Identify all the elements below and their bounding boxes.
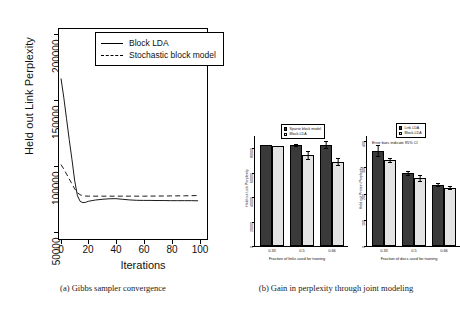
errorbar-protein-block-lda-0 xyxy=(388,158,393,163)
chart-protein-perplexity-xtick-0: 0.33 xyxy=(372,248,396,253)
errorbar-link-lda-2 xyxy=(436,183,441,187)
chart-link-perplexity-y-axis xyxy=(254,136,255,246)
bar-protein-block-lda-2 xyxy=(444,188,456,246)
errorbar-sparse-block-model-1 xyxy=(294,144,299,146)
legend-label-block-lda: Block-LDA xyxy=(290,132,307,137)
chart-protein-perplexity-xtick-1: 0.5 xyxy=(402,248,426,253)
bar-link-lda-0 xyxy=(372,151,384,246)
errorbar-link-lda-0 xyxy=(376,145,381,157)
panel-b-perplexity-gain: Held out Link Perplexity 0 20000 40000 6… xyxy=(228,0,453,275)
chart-protein-perplexity-xtick-2: 0.66 xyxy=(432,248,456,253)
panel-a-xtick-0: 0 xyxy=(46,244,76,255)
bar-link-lda-2 xyxy=(432,185,444,246)
errorbar-block-lda-0 xyxy=(276,146,281,147)
bar-block-lda-0 xyxy=(272,146,284,246)
panel-a-legend: Block LDA Stochastic block model xyxy=(95,32,224,66)
legend-item-protein-block-lda: Block-LDA xyxy=(399,131,422,136)
errorbar-protein-block-lda-1 xyxy=(418,175,423,182)
chart-link-perplexity-x-axis xyxy=(254,246,348,247)
dark-square-swatch-icon xyxy=(399,126,402,129)
chart-protein-perplexity: Held out Protein Perplexity 0 100 200 30… xyxy=(348,118,460,266)
panel-a-xtick-1: 20 xyxy=(73,244,103,255)
chart-protein-perplexity-annotation: Error bars indicate 95% CI xyxy=(372,140,418,145)
chart-protein-perplexity-x-title: Fraction of docs used for training xyxy=(358,256,460,261)
series-stochastic-block-model-line xyxy=(61,165,198,197)
panel-a-plot-area: Block LDA Stochastic block model xyxy=(58,28,208,240)
panel-a-xtick-5: 100 xyxy=(185,244,215,255)
panel-a-x-axis-title: Iterations xyxy=(29,259,257,271)
bar-protein-block-lda-0 xyxy=(384,160,396,246)
bar-block-lda-2 xyxy=(332,162,344,246)
dark-square-swatch-icon xyxy=(284,127,287,130)
errorbar-protein-block-lda-2 xyxy=(448,186,453,190)
dashed-line-swatch-icon xyxy=(101,51,123,59)
chart-protein-perplexity-y-axis xyxy=(366,136,367,246)
chart-link-perplexity: Held out Link Perplexity 0 20000 40000 6… xyxy=(236,118,348,266)
bar-block-lda-1 xyxy=(302,155,314,246)
panel-a-y-axis-title: Held out Link Perplexity xyxy=(23,11,35,181)
panel-a-xtick-4: 80 xyxy=(157,244,187,255)
bar-sparse-block-model-2 xyxy=(320,145,332,246)
panel-a-legend-label-0: Block LDA xyxy=(129,37,169,49)
panel-a-xtick-2: 40 xyxy=(101,244,131,255)
panel-a-legend-item-0: Block LDA xyxy=(101,37,216,49)
legend-item-block-lda: Block-LDA xyxy=(284,132,321,137)
light-square-swatch-icon xyxy=(399,132,402,135)
caption-a: (a) Gibbs sampler convergence xyxy=(8,283,218,293)
bar-link-lda-1 xyxy=(402,173,414,246)
chart-protein-perplexity-x-axis xyxy=(366,246,460,247)
errorbar-link-lda-1 xyxy=(406,171,411,176)
chart-link-perplexity-x-title: Fraction of links used for training xyxy=(246,256,348,261)
chart-protein-perplexity-legend: Link LDA Block-LDA xyxy=(396,123,426,138)
bar-protein-block-lda-1 xyxy=(414,178,426,246)
chart-protein-perplexity-y-title: Held out Protein Perplexity xyxy=(359,155,363,221)
errorbar-block-lda-2 xyxy=(336,158,341,166)
panel-a-legend-item-1: Stochastic block model xyxy=(101,49,216,61)
caption-b: (b) Gain in perplexity through joint mod… xyxy=(222,283,450,293)
series-block-lda-line xyxy=(61,78,198,202)
chart-link-perplexity-y-title: Held out Link Perplexity xyxy=(245,156,249,220)
chart-link-perplexity-xtick-0: 0.33 xyxy=(260,248,284,253)
panel-a-xtick-3: 60 xyxy=(129,244,159,255)
legend-label-protein-block-lda: Block-LDA xyxy=(405,131,422,136)
errorbar-block-lda-1 xyxy=(306,151,311,160)
panel-a-gibbs-convergence: Held out Link Perplexity 50000 100000 15… xyxy=(0,0,228,275)
panel-a-legend-label-1: Stochastic block model xyxy=(129,49,216,61)
errorbar-sparse-block-model-2 xyxy=(324,141,329,149)
light-square-swatch-icon xyxy=(284,133,287,136)
chart-link-perplexity-xtick-1: 0.5 xyxy=(290,248,314,253)
chart-link-perplexity-xtick-2: 0.66 xyxy=(320,248,344,253)
bar-sparse-block-model-0 xyxy=(260,145,272,246)
chart-link-perplexity-legend: Sparse block model Block-LDA xyxy=(281,124,325,139)
solid-line-swatch-icon xyxy=(101,39,123,47)
bar-sparse-block-model-1 xyxy=(290,145,302,246)
